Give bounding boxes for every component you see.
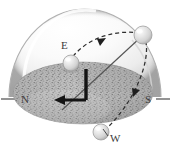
sun-upper-right-highlight bbox=[137, 29, 143, 34]
sun-upper-right-body bbox=[134, 26, 152, 44]
sun-west-highlight bbox=[95, 127, 101, 131]
diagram-canvas bbox=[0, 0, 171, 151]
celestial-dome-figure: N E S W bbox=[0, 0, 171, 151]
sun-west-bottom bbox=[93, 124, 109, 140]
cardinal-label-west: W bbox=[110, 133, 120, 144]
sun-east-highlight bbox=[65, 57, 71, 61]
cardinal-label-south: S bbox=[145, 94, 151, 105]
sun-west-body bbox=[93, 124, 109, 140]
cardinal-label-north: N bbox=[21, 94, 29, 105]
sun-east-body bbox=[63, 55, 79, 71]
cardinal-label-east: E bbox=[61, 40, 68, 51]
sun-upper-right bbox=[134, 26, 152, 44]
sun-east-horizon bbox=[63, 55, 80, 73]
